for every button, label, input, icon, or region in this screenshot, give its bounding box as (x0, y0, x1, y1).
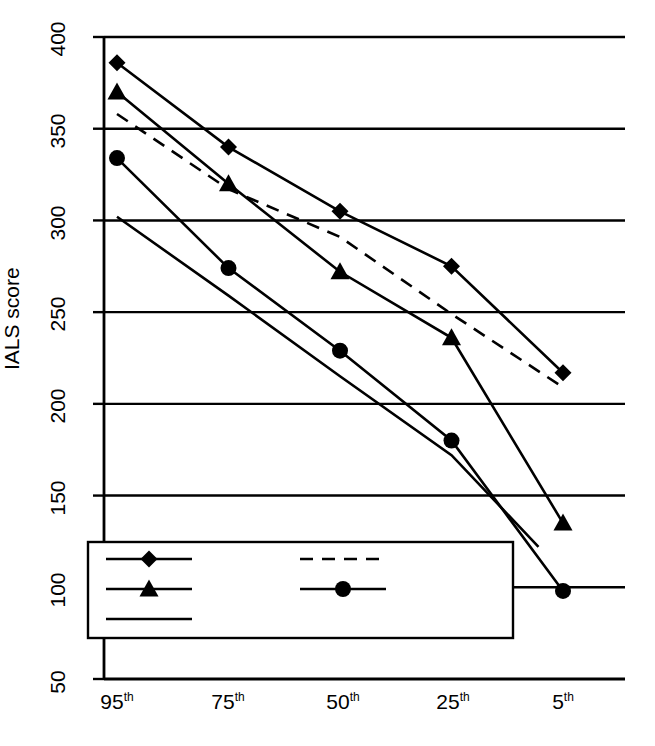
marker-portugal-75th (221, 260, 237, 276)
ials-score-line-chart: IALS score 400 350 300 250 200 150 100 5… (0, 0, 655, 746)
plot-canvas (0, 0, 655, 746)
marker-sweden-50th (332, 203, 349, 220)
series-lines (117, 63, 563, 591)
marker-portugal-50th (332, 343, 348, 359)
series-line-chile (117, 217, 539, 547)
legend-key-marker-portugal (335, 581, 351, 597)
gridlines (104, 37, 625, 587)
marker-usa-25th (442, 328, 461, 345)
marker-portugal-5th (555, 583, 571, 599)
series-line-portugal (117, 158, 563, 591)
marker-portugal-25th (444, 433, 460, 449)
series-markers (108, 54, 573, 599)
marker-usa-5th (554, 514, 573, 531)
marker-portugal-95th (109, 150, 125, 166)
marker-usa-50th (331, 262, 350, 279)
marker-usa-95th (108, 83, 127, 100)
